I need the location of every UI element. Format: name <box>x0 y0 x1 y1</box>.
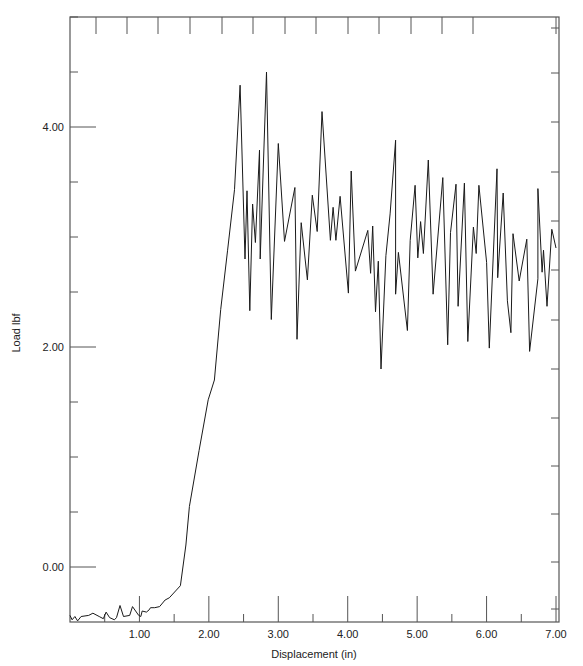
plot-border <box>70 17 559 622</box>
axis-tick-labels: 0.002.004.001.002.003.004.005.006.007.00 <box>43 121 567 640</box>
x-tick-label: 3.00 <box>268 628 289 640</box>
x-tick-label: 5.00 <box>406 628 427 640</box>
axis-ticks <box>70 17 559 622</box>
y-tick-label: 2.00 <box>43 341 64 353</box>
x-axis-label: Displacement (in) <box>271 648 357 660</box>
y-axis-label: Load lbf <box>10 312 22 352</box>
x-tick-label: 6.00 <box>476 628 497 640</box>
x-tick-label: 4.00 <box>337 628 358 640</box>
y-tick-label: 0.00 <box>43 561 64 573</box>
x-tick-label: 7.00 <box>545 628 566 640</box>
x-tick-label: 2.00 <box>198 628 219 640</box>
load-displacement-chart: 0.002.004.001.002.003.004.005.006.007.00… <box>0 0 583 666</box>
x-tick-label: 1.00 <box>129 628 150 640</box>
y-tick-label: 4.00 <box>43 121 64 133</box>
plot-frame <box>70 17 559 622</box>
load-series-line <box>70 72 556 621</box>
